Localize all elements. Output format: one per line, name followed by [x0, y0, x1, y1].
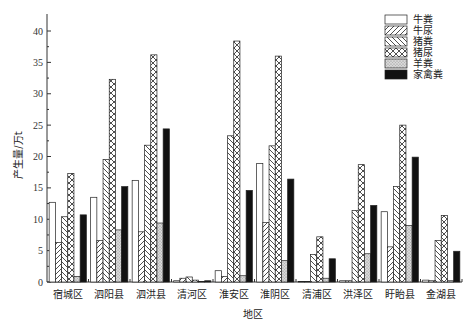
bar: [198, 281, 204, 282]
bar: [358, 165, 364, 282]
bar: [151, 55, 157, 282]
bar: [97, 241, 103, 282]
bar: [269, 146, 275, 282]
bar: [62, 217, 68, 282]
legend-item: 家禽粪: [385, 68, 443, 80]
bar: [423, 280, 429, 282]
bar: [246, 190, 252, 282]
x-tick-label: 泗阳县: [94, 289, 124, 300]
bar: [74, 276, 80, 282]
x-tick-label: 洪泽区: [343, 289, 373, 300]
bar: [454, 251, 460, 282]
bar: [49, 202, 55, 282]
bar-group: [49, 173, 86, 282]
legend-swatch: [385, 48, 407, 57]
bar: [394, 187, 400, 282]
bar: [364, 254, 370, 282]
bar-group: [257, 56, 294, 282]
bar: [132, 180, 138, 282]
bar: [352, 210, 358, 282]
bar: [429, 281, 435, 282]
bar: [240, 276, 246, 282]
bar-group: [298, 237, 335, 282]
legend-item: 牛尿: [385, 24, 433, 36]
bar: [304, 281, 310, 282]
bar: [329, 259, 335, 282]
category-labels: 宿城区泗阳县泗洪县清河区淮安区淮阴区清浦区洪泽区盱眙县金湖县: [53, 288, 457, 300]
bar: [180, 278, 186, 282]
bar: [263, 222, 269, 282]
bar: [163, 129, 169, 282]
bar: [55, 242, 61, 282]
y-tick-label: 20: [33, 151, 43, 162]
legend-label: 家禽粪: [413, 68, 443, 80]
bar: [311, 254, 317, 282]
legend-swatch: [385, 59, 407, 68]
bar: [80, 215, 86, 282]
bar: [186, 277, 192, 282]
bar: [412, 157, 418, 282]
bar: [122, 187, 128, 282]
bar: [145, 145, 151, 282]
bar: [205, 281, 211, 282]
y-tick-label: 40: [33, 26, 43, 37]
y-tick-label: 15: [33, 182, 43, 193]
bar: [275, 56, 281, 282]
bar: [447, 281, 453, 282]
legend-label: 猪尿: [413, 47, 433, 58]
bar: [381, 212, 387, 282]
bar: [228, 136, 234, 282]
legend-item: 羊粪: [385, 57, 433, 69]
bar: [317, 237, 323, 282]
bar: [435, 241, 441, 282]
y-tick-label: 5: [38, 245, 43, 256]
bar: [288, 179, 294, 282]
bar-group: [340, 165, 377, 282]
y-axis-title: 产生量/万t: [12, 131, 24, 178]
legend-item: 猪尿: [385, 47, 433, 58]
legend-swatch: [385, 26, 407, 35]
x-tick-label: 清河区: [177, 288, 207, 300]
bar: [323, 278, 329, 282]
bar-group: [381, 125, 418, 282]
y-tick-label: 35: [33, 57, 43, 68]
x-axis-title: 地区: [243, 308, 263, 320]
bar: [157, 223, 163, 282]
bar: [174, 281, 180, 282]
bar-group: [423, 215, 460, 282]
legend-swatch: [385, 70, 407, 79]
bar-group: [215, 41, 252, 282]
y-tick-label: 0: [38, 277, 43, 288]
x-tick-label: 淮阴区: [260, 289, 290, 300]
bar-group: [91, 79, 128, 282]
x-tick-label: 金湖县: [426, 288, 456, 300]
legend-label: 羊粪: [413, 57, 433, 69]
bar: [281, 261, 287, 282]
y-ticks: 0510152025303540: [33, 26, 51, 288]
bar: [91, 197, 97, 282]
bar: [346, 281, 352, 282]
bar: [400, 125, 406, 282]
bar: [138, 232, 144, 282]
x-tick-label: 宿城区: [53, 288, 83, 300]
x-tick-label: 淮安区: [219, 288, 249, 300]
x-tick-label: 泗洪县: [136, 289, 166, 300]
y-tick-label: 10: [33, 214, 43, 225]
bar: [298, 281, 304, 282]
legend-swatch: [385, 37, 407, 46]
legend-label: 牛粪: [413, 13, 433, 25]
bar: [441, 215, 447, 282]
bar: [387, 247, 393, 282]
bar: [103, 160, 109, 282]
legend-item: 牛粪: [385, 13, 433, 25]
bar-chart: 0510152025303540 宿城区泗阳县泗洪县清河区淮安区淮阴区清浦区洪泽…: [0, 0, 474, 325]
legend: 牛粪牛尿猪粪猪尿羊粪家禽粪: [385, 13, 443, 80]
bar: [406, 226, 412, 282]
legend-swatch: [385, 15, 407, 24]
bar: [371, 205, 377, 282]
bar: [215, 271, 221, 282]
bar: [221, 276, 227, 282]
y-tick-label: 25: [33, 120, 43, 131]
bar: [68, 173, 74, 282]
bar: [340, 281, 346, 282]
